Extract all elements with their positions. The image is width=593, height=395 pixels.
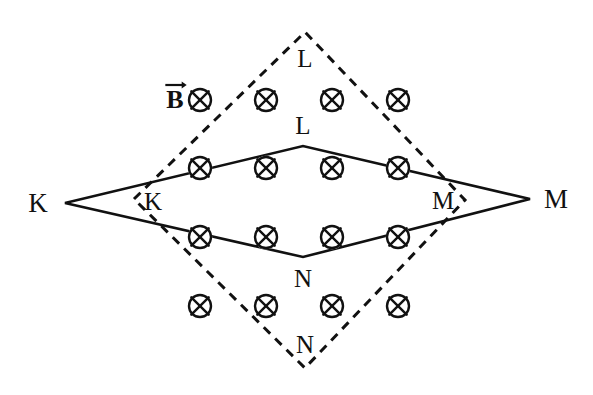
label-N-dashed: N: [296, 332, 314, 357]
label-M-outer: M: [544, 186, 568, 213]
label-N-solid: N: [294, 266, 312, 291]
field-into-page-icon: [386, 225, 410, 249]
field-into-page-icon: [386, 88, 410, 112]
solid-rhombus: [65, 146, 530, 257]
field-into-page-icon: [320, 156, 344, 180]
label-K-dashed: K: [144, 189, 162, 214]
field-into-page-icon: [386, 294, 410, 318]
label-L-solid: L: [295, 113, 310, 138]
field-into-page-icon: [320, 88, 344, 112]
b-vector-letter: B: [166, 85, 183, 114]
field-into-page-icon: [254, 156, 278, 180]
field-into-page-icon: [386, 156, 410, 180]
label-M-dashed: M: [432, 188, 454, 213]
magnetic-field-label: B: [166, 87, 183, 113]
b-vector-symbol: B: [166, 87, 183, 113]
label-L-dashed: L: [297, 46, 312, 71]
physics-diagram: B KMLLKMNN: [0, 0, 593, 395]
field-into-page-icon: [320, 294, 344, 318]
field-into-page-icon: [188, 88, 212, 112]
field-into-page-icon: [254, 225, 278, 249]
label-K-outer: K: [28, 190, 48, 217]
vector-arrow-icon: [165, 80, 186, 88]
field-into-page-icon: [320, 225, 344, 249]
field-into-page-icon: [188, 225, 212, 249]
solid-rhombus-KLMN: [65, 146, 530, 257]
field-into-page-icon: [188, 294, 212, 318]
field-into-page-icon: [188, 156, 212, 180]
field-into-page-icon: [254, 88, 278, 112]
field-into-page-icon: [254, 294, 278, 318]
